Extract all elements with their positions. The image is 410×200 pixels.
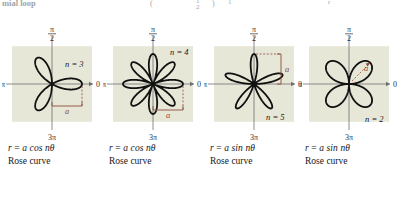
a-label: a (65, 106, 69, 116)
axis-label-3pi-over-2-numerator: 3π (345, 133, 353, 140)
axis-label-pi: π (103, 80, 106, 89)
equation-4: r = a sin nθ (305, 142, 409, 154)
n-value-label: n = 4 (170, 47, 189, 57)
panel-caption-2: r = a cos nθ Rose curve (109, 142, 213, 167)
header-text-fragment: 2 (196, 3, 200, 11)
n-value-label: n = 2 (365, 114, 384, 124)
polar-plot-svg-4: π23π2π0n = 2a (299, 22, 399, 140)
rose-curve-panel-3: π23π2π0n = 5a r = a sin nθ Rose curve (204, 22, 304, 192)
axis-label-3pi-over-2-numerator: 3π (250, 133, 258, 140)
caption-label-4: Rose curve (305, 155, 409, 167)
axis-label-pi-over-2-numerator: π (50, 25, 54, 34)
polar-plot-svg-3: π23π2π0n = 5a (204, 22, 304, 140)
axis-label-pi: π (204, 80, 207, 89)
axis-label-pi: π (2, 80, 5, 89)
n-value-label: n = 3 (65, 59, 84, 69)
axis-label-3pi-over-2-numerator: 3π (149, 133, 157, 140)
cropped-header-text: mial loop(12)1r (0, 0, 410, 14)
axis-label-pi: π (299, 80, 302, 89)
header-text-fragment: r (328, 0, 330, 6)
axis-label-zero: 0 (197, 80, 201, 89)
polar-plot-2: π23π2π0n = 4a (103, 22, 203, 140)
caption-label-2: Rose curve (109, 155, 213, 167)
axis-label-pi-over-2-numerator: π (347, 25, 351, 34)
axis-label-pi-over-2-denominator: 2 (347, 34, 351, 43)
header-text-fragment: 1 (228, 0, 232, 6)
axis-label-zero: 0 (393, 80, 397, 89)
rose-curve-panel-2: π23π2π0n = 4a r = a cos nθ Rose curve (103, 22, 203, 192)
axis-label-zero: 0 (96, 80, 100, 89)
header-text-fragment: ( (150, 0, 153, 8)
polar-plot-svg-2: π23π2π0n = 4a (103, 22, 203, 140)
header-text-fragment: mial loop (2, 0, 36, 8)
a-label: a (285, 64, 289, 74)
axis-label-3pi-over-2-numerator: 3π (48, 133, 56, 140)
axis-label-pi-over-2-denominator: 2 (151, 34, 155, 43)
equation-1: r = a cos nθ (8, 142, 112, 154)
axis-label-pi-over-2-denominator: 2 (252, 34, 256, 43)
n-value-label: n = 5 (266, 112, 285, 122)
panel-caption-1: r = a cos nθ Rose curve (8, 142, 112, 167)
rose-curve-panel-4: π23π2π0n = 2a r = a sin nθ Rose curve (299, 22, 399, 192)
polar-plot-1: π23π2π0n = 3a (2, 22, 102, 140)
polar-plot-4: π23π2π0n = 2a (299, 22, 399, 140)
rose-curve-panel-1: π23π2π0n = 3a r = a cos nθ Rose curve (2, 22, 102, 192)
polar-plot-3: π23π2π0n = 5a (204, 22, 304, 140)
equation-2: r = a cos nθ (109, 142, 213, 154)
axis-label-pi-over-2-numerator: π (252, 25, 256, 34)
polar-plot-svg-1: π23π2π0n = 3a (2, 22, 102, 140)
axis-label-pi-over-2-numerator: π (151, 25, 155, 34)
a-label: a (364, 63, 368, 73)
panel-caption-4: r = a sin nθ Rose curve (305, 142, 409, 167)
axis-label-pi-over-2-denominator: 2 (50, 34, 54, 43)
a-label: a (166, 110, 170, 120)
rose-curve-panel-row: π23π2π0n = 3a r = a cos nθ Rose curve π2… (0, 22, 410, 192)
caption-label-1: Rose curve (8, 155, 112, 167)
header-text-fragment: ) (212, 0, 215, 8)
